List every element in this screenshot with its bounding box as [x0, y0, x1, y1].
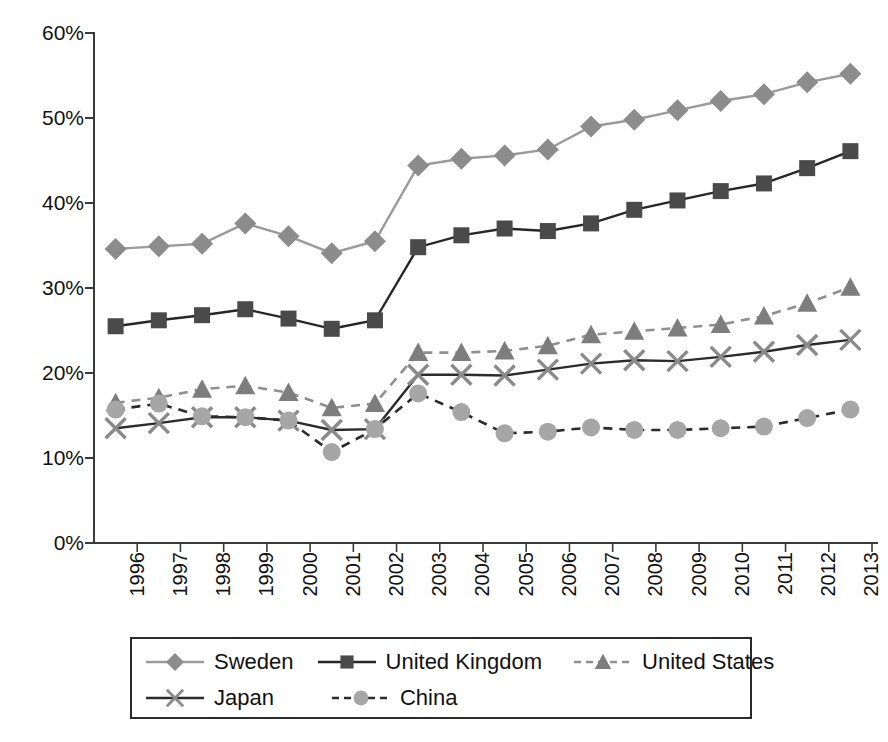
x-axis-tick-label: 1996: [126, 552, 149, 597]
x-axis-tick-label: 2000: [299, 552, 322, 597]
legend-row: JapanChina: [132, 680, 750, 716]
square-marker-icon: [340, 655, 353, 668]
x-axis-tick-label: 2013: [860, 552, 883, 597]
legend-swatch: [316, 650, 378, 674]
x-axis-tick-label: 1997: [169, 552, 192, 597]
legend-swatch: [330, 686, 392, 710]
legend-swatch: [572, 650, 634, 674]
x-axis-tick-label: 2010: [731, 552, 754, 597]
chart-legend: SwedenUnited KingdomUnited StatesJapanCh…: [130, 637, 752, 719]
x-axis-tick-label: 2004: [471, 552, 494, 597]
legend-label: China: [400, 687, 457, 709]
x-axis-tick-label: 2008: [644, 552, 667, 597]
chart-page: 60%50%40%30%20%10%0% 1996199719981999200…: [0, 0, 888, 742]
x-axis-tick-label: 2001: [342, 552, 365, 597]
triangle-marker-icon: [595, 654, 611, 669]
legend-item-sweden[interactable]: Sweden: [144, 650, 294, 674]
legend-label: Japan: [214, 687, 274, 709]
x-axis-tick-label: 1999: [255, 552, 278, 597]
line-chart: 60%50%40%30%20%10%0% 1996199719981999200…: [0, 0, 888, 630]
legend-item-united-kingdom[interactable]: United Kingdom: [316, 650, 543, 674]
legend-swatch: [144, 686, 206, 710]
legend-label: United States: [642, 651, 774, 673]
legend-item-japan[interactable]: Japan: [144, 686, 274, 710]
circle-marker-icon: [354, 691, 369, 706]
legend-row: SwedenUnited KingdomUnited States: [132, 644, 750, 680]
legend-swatch: [144, 650, 206, 674]
legend-label: United Kingdom: [386, 651, 543, 673]
x-axis-tick-label: 2003: [428, 552, 451, 597]
x-axis-tick-label: 2006: [558, 552, 581, 597]
x-axis-tick-label: 1998: [212, 552, 235, 597]
x-axis-tick-label: 2002: [385, 552, 408, 597]
legend-label: Sweden: [214, 651, 294, 673]
x-axis-tick-label: 2005: [515, 552, 538, 597]
x-axis-tick-label: 2011: [774, 552, 797, 595]
diamond-marker-icon: [166, 653, 184, 671]
x-axis-tick-label: 2012: [817, 552, 840, 597]
x-axis-tick-label: 2009: [688, 552, 711, 597]
x-axis-tick-label: 2007: [601, 552, 624, 597]
legend-item-china[interactable]: China: [330, 686, 457, 710]
legend-item-united-states[interactable]: United States: [572, 650, 774, 674]
x-axis-tick-labels: 1996199719981999200020012002200320042005…: [0, 0, 888, 630]
